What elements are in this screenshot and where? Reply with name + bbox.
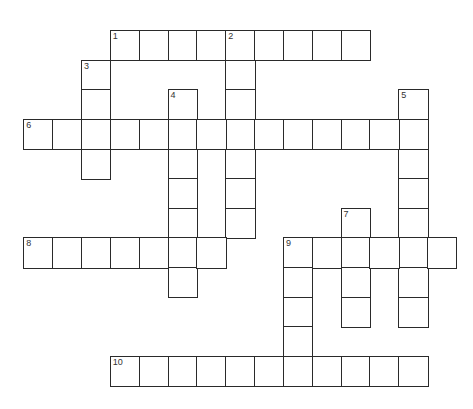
crossword-cell[interactable]: [168, 267, 198, 298]
crossword-cell[interactable]: [225, 178, 255, 209]
crossword-cell[interactable]: [81, 89, 111, 120]
clue-number: 4: [171, 90, 176, 101]
crossword-cell[interactable]: [225, 60, 255, 91]
crossword-cell[interactable]: [283, 297, 313, 328]
clue-number: 10: [113, 357, 123, 368]
crossword-cell[interactable]: [139, 119, 169, 150]
clue-number: 9: [286, 238, 291, 249]
crossword-cell[interactable]: [225, 89, 255, 120]
crossword-cell[interactable]: [254, 119, 284, 150]
crossword-cell[interactable]: [283, 267, 313, 298]
crossword-cell[interactable]: [312, 237, 342, 268]
crossword-cell[interactable]: [110, 237, 140, 268]
crossword-cell[interactable]: [81, 149, 111, 180]
crossword-cell[interactable]: [312, 119, 342, 150]
crossword-cell[interactable]: [225, 119, 255, 150]
crossword-cell[interactable]: [341, 119, 371, 150]
crossword-cell[interactable]: [168, 119, 198, 150]
crossword-cell[interactable]: [225, 149, 255, 180]
clue-number: 8: [26, 238, 31, 249]
crossword-cell[interactable]: [110, 119, 140, 150]
crossword-cell[interactable]: [427, 237, 457, 268]
crossword-cell[interactable]: [312, 356, 342, 387]
crossword-cell[interactable]: [225, 208, 255, 239]
crossword-cell[interactable]: 4: [168, 89, 198, 120]
crossword-cell[interactable]: 8: [23, 237, 53, 268]
clue-number: 1: [113, 31, 118, 42]
crossword-cell[interactable]: [341, 30, 371, 61]
crossword-cell[interactable]: [369, 237, 399, 268]
crossword-cell[interactable]: [398, 297, 428, 328]
crossword-cell[interactable]: [398, 178, 428, 209]
crossword-cell[interactable]: [196, 119, 226, 150]
crossword-cell[interactable]: [341, 237, 371, 268]
crossword-cell[interactable]: [369, 356, 399, 387]
crossword-cell[interactable]: [139, 237, 169, 268]
crossword-cell[interactable]: [52, 237, 82, 268]
crossword-cell[interactable]: [283, 326, 313, 357]
crossword-cell[interactable]: [168, 237, 198, 268]
crossword-cell[interactable]: [52, 119, 82, 150]
crossword-cell[interactable]: 6: [23, 119, 53, 150]
crossword-cell[interactable]: [398, 267, 428, 298]
crossword-cell[interactable]: [341, 297, 371, 328]
crossword-cell[interactable]: [341, 267, 371, 298]
clue-number: 6: [26, 120, 31, 131]
crossword-cell[interactable]: [369, 119, 399, 150]
crossword-cell[interactable]: [283, 30, 313, 61]
crossword-cell[interactable]: 5: [398, 89, 428, 120]
crossword-grid: 12345678910: [0, 0, 473, 409]
crossword-cell[interactable]: [196, 30, 226, 61]
crossword-cell[interactable]: [196, 356, 226, 387]
crossword-cell[interactable]: [81, 237, 111, 268]
crossword-cell[interactable]: 10: [110, 356, 140, 387]
crossword-cell[interactable]: [168, 178, 198, 209]
crossword-cell[interactable]: 2: [225, 30, 255, 61]
crossword-cell[interactable]: [254, 30, 284, 61]
crossword-cell[interactable]: [225, 356, 255, 387]
crossword-cell[interactable]: [398, 356, 428, 387]
clue-number: 5: [401, 90, 406, 101]
crossword-cell[interactable]: [398, 149, 428, 180]
crossword-cell[interactable]: 9: [283, 237, 313, 268]
crossword-cell[interactable]: [196, 237, 226, 268]
crossword-cell[interactable]: [168, 149, 198, 180]
crossword-cell[interactable]: 7: [341, 208, 371, 239]
crossword-cell[interactable]: [168, 356, 198, 387]
crossword-cell[interactable]: [398, 237, 428, 268]
crossword-cell[interactable]: [398, 208, 428, 239]
crossword-cell[interactable]: [312, 30, 342, 61]
clue-number: 7: [344, 209, 349, 220]
crossword-cell[interactable]: 3: [81, 60, 111, 91]
crossword-cell[interactable]: [283, 356, 313, 387]
crossword-cell[interactable]: 1: [110, 30, 140, 61]
crossword-cell[interactable]: [139, 30, 169, 61]
crossword-cell[interactable]: [139, 356, 169, 387]
crossword-cell[interactable]: [168, 208, 198, 239]
clue-number: 2: [228, 31, 233, 42]
clue-number: 3: [84, 61, 89, 72]
crossword-cell[interactable]: [283, 119, 313, 150]
crossword-cell[interactable]: [81, 119, 111, 150]
crossword-cell[interactable]: [398, 119, 428, 150]
crossword-cell[interactable]: [254, 356, 284, 387]
crossword-cell[interactable]: [168, 30, 198, 61]
crossword-cell[interactable]: [341, 356, 371, 387]
